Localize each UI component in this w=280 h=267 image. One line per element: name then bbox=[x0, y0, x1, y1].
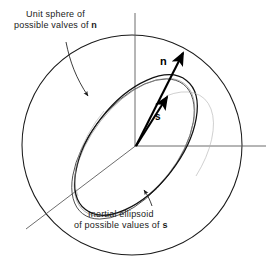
inertial-ellipsoid-annotation-line2-text: of possible values of bbox=[74, 220, 162, 230]
vector-s-label: s bbox=[155, 111, 161, 122]
unit-sphere-annotation-line2: possible valves of n bbox=[14, 20, 97, 31]
vector-n-label: n bbox=[160, 55, 167, 67]
inertial-ellipsoid-annotation: Inertial ellipsoid of possible values of… bbox=[74, 209, 168, 231]
inertial-ellipsoid-annotation-line1: Inertial ellipsoid bbox=[74, 209, 168, 220]
symbol-n: n bbox=[91, 20, 97, 30]
physics-diagram: Unit sphere of possible valves of n Iner… bbox=[0, 0, 280, 267]
symbol-s: s bbox=[162, 220, 167, 230]
unit-sphere-annotation-line2-text: possible valves of bbox=[14, 20, 91, 30]
unit-sphere-annotation-line1: Unit sphere of bbox=[14, 9, 97, 20]
unit-sphere-annotation: Unit sphere of possible valves of n bbox=[14, 9, 97, 31]
inertial-ellipsoid-annotation-line2: of possible values of s bbox=[74, 220, 168, 231]
